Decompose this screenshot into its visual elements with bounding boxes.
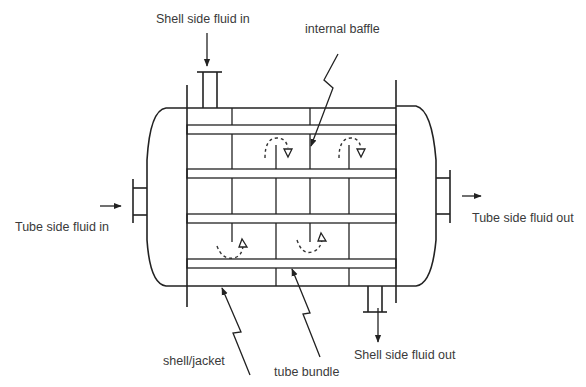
heat-exchanger-diagram: Shell side fluid in internal baffle Tube… [0, 0, 586, 387]
label-tube-side-fluid-in: Tube side fluid in [15, 220, 109, 234]
label-shell-jacket: shell/jacket [163, 354, 225, 368]
label-tube-bundle: tube bundle [274, 365, 339, 379]
flow-indicators [217, 138, 365, 258]
label-shell-side-fluid-out: Shell side fluid out [354, 348, 456, 362]
label-tube-side-fluid-out: Tube side fluid out [472, 211, 574, 225]
label-shell-side-fluid-in: Shell side fluid in [156, 12, 250, 26]
shell-inlet-nozzle [197, 33, 222, 108]
tube-inlet-nozzle [100, 179, 147, 223]
shell-outlet-nozzle [363, 286, 387, 342]
label-internal-baffle: internal baffle [305, 22, 380, 36]
tube-sheets [187, 80, 396, 307]
tube-bundle [187, 125, 396, 268]
